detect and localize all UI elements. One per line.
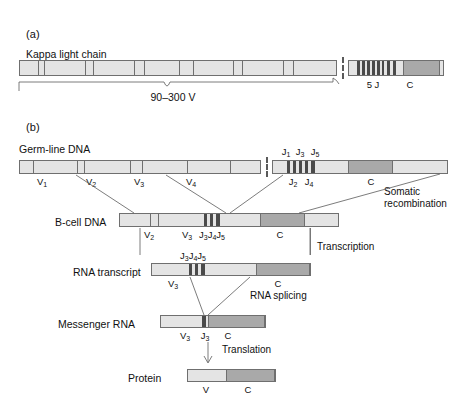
j-subscript: 3 <box>185 255 189 262</box>
rna-transcript-label: RNA transcript <box>73 266 141 278</box>
j-segment <box>382 61 384 75</box>
v-subscript: 3 <box>140 181 144 188</box>
germline-label-v2: V2 <box>80 176 102 187</box>
protein-label-c: C <box>240 384 256 395</box>
j-subscript: 3 <box>204 234 208 241</box>
germline-label-v1: V1 <box>31 176 53 187</box>
v-gene-tick <box>77 161 78 173</box>
panel-a-v-bracket-label: 90–300 V <box>118 91 228 103</box>
panel-a-5j-label: 5 J <box>358 79 388 90</box>
v-gene-tick <box>242 61 243 75</box>
v-gene-tick <box>193 61 194 75</box>
germline-label-j5: J5 <box>307 146 323 157</box>
c-region <box>348 161 393 173</box>
j-subscript: 1 <box>286 151 290 158</box>
j-segment <box>357 61 360 75</box>
v-gene-tick <box>187 161 188 173</box>
j4-segment <box>210 214 213 226</box>
v-gene-tick <box>33 161 34 173</box>
j-subscript: 4 <box>309 181 313 188</box>
j3-segment <box>189 264 192 275</box>
c-region <box>226 370 275 381</box>
mrna-label-v3: V3 <box>176 330 194 341</box>
process-translation: Translation <box>222 344 271 356</box>
v-gene-tick <box>38 61 39 75</box>
v-gene-tick <box>158 214 159 226</box>
j-segment <box>367 61 370 75</box>
panel-a-bracket <box>19 78 333 91</box>
translation-arrow-head <box>204 356 212 363</box>
rna-transcript-bar <box>151 263 311 276</box>
panel-a-c-label: C <box>400 79 420 90</box>
j5-segment <box>216 214 220 226</box>
process-transcription: Transcription <box>317 241 374 253</box>
c-region <box>208 316 265 327</box>
leader-splice-right <box>208 277 250 315</box>
v-gene-tick <box>233 61 234 75</box>
process-rna-splicing: RNA splicing <box>250 290 307 302</box>
germline-dna-label: Germ-line DNA <box>19 143 90 155</box>
protein-bar <box>187 369 276 382</box>
germline-label-j3: J3 <box>292 146 308 157</box>
transcript-label-c: C <box>270 278 286 289</box>
mrna-label-c: C <box>220 330 236 341</box>
panel-a-j-c-bar <box>348 60 444 76</box>
bcell-label-c: C <box>272 229 288 240</box>
v-gene-tick <box>130 161 131 173</box>
v-subscript: 1 <box>43 181 47 188</box>
germline-j-c-bar <box>272 160 448 174</box>
kappa-light-chain-title: Kappa light chain <box>26 48 107 60</box>
v-subscript: 2 <box>92 181 96 188</box>
panel-a-v-region-bar <box>19 60 337 76</box>
v-gene-tick <box>84 161 85 173</box>
protein-label: Protein <box>128 372 161 384</box>
panel-a-dashed-break <box>342 57 344 79</box>
messenger-rna-label: Messenger RNA <box>58 318 135 330</box>
j-subscript: 2 <box>293 181 297 188</box>
bcell-label-j345: J3J4J5 <box>199 229 235 240</box>
bcell-label-v3: V3 <box>178 229 196 240</box>
panel-a-letter: (a) <box>26 28 40 40</box>
v-gene-tick <box>142 161 143 173</box>
v-subscript: 3 <box>186 335 190 342</box>
j-subscript: 4 <box>193 255 197 262</box>
bcell-dna-label: B-cell DNA <box>55 216 106 228</box>
figure-root: { "figure": { "panels": [ { "id": "a", "… <box>0 0 462 405</box>
v-gene-tick <box>293 61 294 75</box>
protein-label-v: V <box>198 384 214 395</box>
v-gene-tick <box>144 61 145 75</box>
process-somatic-recombination: Somatic recombination <box>384 186 447 210</box>
leader-splice-left <box>190 277 204 315</box>
j-subscript: 5 <box>315 151 319 158</box>
v-gene-tick <box>230 161 231 173</box>
germline-label-j4: J4 <box>301 176 317 187</box>
j-segment <box>393 61 396 75</box>
j-subscript: 3 <box>205 335 209 342</box>
germline-label-v3: V3 <box>128 176 150 187</box>
v-subscript: 3 <box>174 283 178 290</box>
somatic-line-2: recombination <box>384 198 447 210</box>
v-gene-tick <box>134 61 135 75</box>
panel-b-letter: (b) <box>26 121 40 133</box>
j-segment <box>377 61 380 75</box>
c-region <box>256 264 310 275</box>
c-region <box>403 61 440 75</box>
j-subscript: 5 <box>202 255 206 262</box>
j4-segment <box>195 264 198 275</box>
v-gene-tick <box>283 61 284 75</box>
germline-label-c: C <box>363 176 379 187</box>
j1-segment <box>287 161 290 173</box>
c-region <box>260 214 305 226</box>
germline-v-region-bar <box>19 160 261 174</box>
v-gene-tick <box>93 61 94 75</box>
j-segment <box>372 61 375 75</box>
leader-j-to-bcell <box>230 175 283 213</box>
j3-segment <box>299 161 302 173</box>
j-subscript: 3 <box>300 151 304 158</box>
germline-dashed-break <box>266 157 268 177</box>
v-gene-tick <box>44 61 45 75</box>
j-subscript: 4 <box>212 234 216 241</box>
j5-segment <box>201 264 205 275</box>
germline-label-j2: J2 <box>285 176 301 187</box>
bcell-label-v2: V2 <box>140 229 158 240</box>
